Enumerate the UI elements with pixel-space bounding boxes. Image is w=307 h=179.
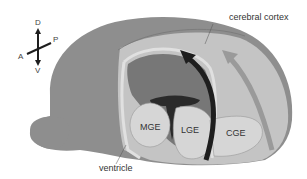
ventricle-label: ventricle <box>99 164 133 173</box>
olfactory-bulb <box>30 117 69 149</box>
cerebral-cortex-label: cerebral cortex <box>229 13 289 22</box>
lge-label: LGE <box>181 126 199 135</box>
anterior-label: A <box>18 53 23 61</box>
brain-diagram <box>0 0 307 179</box>
dorsal-label: D <box>35 19 41 27</box>
posterior-label: P <box>53 36 58 44</box>
ventral-label: V <box>35 67 40 75</box>
compass-d-arrow-icon <box>35 28 41 34</box>
mge-label: MGE <box>140 123 161 132</box>
cge-label: CGE <box>226 129 246 138</box>
